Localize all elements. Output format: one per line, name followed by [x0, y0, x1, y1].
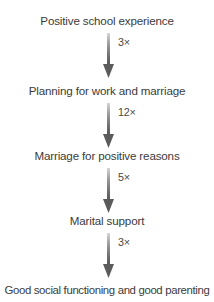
- flow-edge-3: 5×: [0, 168, 214, 214]
- flow-node-good-social-functioning-and-good-parenting: Good social functioning and good parenti…: [0, 284, 214, 297]
- flow-edge-3-label: 5×: [118, 171, 130, 183]
- down-arrow-icon: [103, 168, 114, 214]
- flow-edge-4: 3×: [0, 233, 214, 279]
- flow-node-marital-support: Marital support: [0, 214, 214, 227]
- flow-edge-4-label: 3×: [118, 236, 130, 248]
- flow-edge-2: 12×: [0, 103, 214, 149]
- flow-node-marriage-for-positive-reasons: Marriage for positive reasons: [0, 149, 214, 162]
- down-arrow-icon: [103, 233, 114, 279]
- flow-node-planning-for-work-and-marriage: Planning for work and marriage: [0, 84, 214, 97]
- flow-edge-1-label: 3×: [118, 36, 130, 48]
- flow-edge-2-label: 12×: [118, 106, 136, 118]
- flowchart-diagram: Positive school experience 3× Planning f…: [0, 0, 214, 302]
- down-arrow-icon: [103, 103, 114, 149]
- flow-node-positive-school-experience: Positive school experience: [0, 14, 214, 27]
- flow-edge-1: 3×: [0, 33, 214, 79]
- down-arrow-icon: [103, 33, 114, 79]
